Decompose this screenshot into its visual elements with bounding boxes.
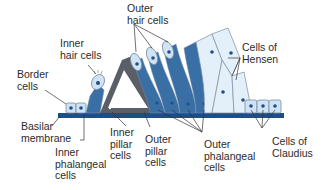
label-border-cells: Border cells <box>17 69 49 92</box>
label-cells-of-claudius: Cells of Claudius <box>272 136 313 159</box>
label-cells-of-hensen: Cells of Hensen <box>242 42 278 65</box>
organ-of-corti-diagram: Outer hair cells Inner hair cells Border… <box>0 0 323 190</box>
label-inner-phalangeal-cells: Inner phalangeal cells <box>55 147 106 182</box>
border-cells <box>66 103 86 113</box>
label-outer-pillar-cells: Outer pillar cells <box>145 134 171 169</box>
basilar-membrane <box>58 113 284 118</box>
label-inner-pillar-cells: Inner pillar cells <box>110 127 134 162</box>
inner-hair-cell <box>89 70 107 92</box>
label-outer-phalangeal-cells: Outer phalangeal cells <box>204 139 255 174</box>
label-outer-hair-cells: Outer hair cells <box>127 3 168 26</box>
label-basilar-membrane: Basilar membrane <box>21 121 71 144</box>
label-inner-hair-cells: Inner hair cells <box>60 38 101 61</box>
